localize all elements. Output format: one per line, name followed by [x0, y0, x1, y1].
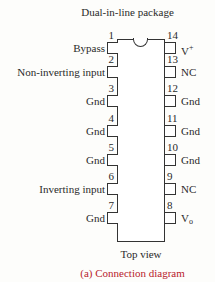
pin-6 — [107, 183, 118, 195]
pin-3 — [107, 95, 118, 107]
pin-number-6: 6 — [109, 171, 115, 182]
pin-number-7: 7 — [109, 200, 115, 211]
pin-label-1: Bypass — [73, 42, 105, 54]
pin-label-9: NC — [181, 183, 196, 195]
pin-number-12: 12 — [167, 83, 178, 94]
pin-7 — [107, 212, 118, 224]
pin-label-11: Gnd — [181, 125, 200, 137]
pin-number-5: 5 — [109, 142, 115, 153]
pin-12 — [165, 95, 176, 107]
pin-label-10: Gnd — [181, 154, 200, 166]
pin-number-1: 1 — [109, 30, 115, 41]
pin-label-2: Non-inverting input — [17, 66, 105, 78]
pin-number-10: 10 — [167, 142, 178, 153]
pin-number-2: 2 — [109, 54, 115, 65]
pin-number-11: 11 — [167, 113, 178, 124]
pin-label-4: Gnd — [86, 125, 105, 137]
pin-13 — [165, 66, 176, 78]
pin-5 — [107, 154, 118, 166]
pin-label-12: Gnd — [181, 95, 200, 107]
pin-number-8: 8 — [167, 200, 173, 211]
pin-label-8: Vo — [181, 212, 193, 228]
pin-label-6: Inverting input — [39, 183, 105, 195]
pin-11 — [165, 125, 176, 137]
pin-number-3: 3 — [109, 83, 115, 94]
pin-number-14: 14 — [167, 30, 178, 41]
pin-label-3: Gnd — [86, 95, 105, 107]
pin-label-7: Gnd — [86, 212, 105, 224]
pin-8 — [165, 212, 176, 224]
pin-number-9: 9 — [167, 171, 173, 182]
pin-4 — [107, 125, 118, 137]
pin-label-14: V+ — [181, 42, 193, 57]
pin-label-13: NC — [181, 66, 196, 78]
pin-9 — [165, 183, 176, 195]
figure-caption: (a) Connection diagram — [0, 267, 215, 279]
pin-number-4: 4 — [109, 113, 115, 124]
ic-package-body — [117, 39, 165, 242]
pin-2 — [107, 66, 118, 78]
pin-10 — [165, 154, 176, 166]
pin-label-5: Gnd — [86, 154, 105, 166]
diagram-title: Dual-in-line package — [0, 6, 215, 18]
top-view-label: Top view — [117, 248, 165, 260]
pin-number-13: 13 — [167, 54, 178, 65]
